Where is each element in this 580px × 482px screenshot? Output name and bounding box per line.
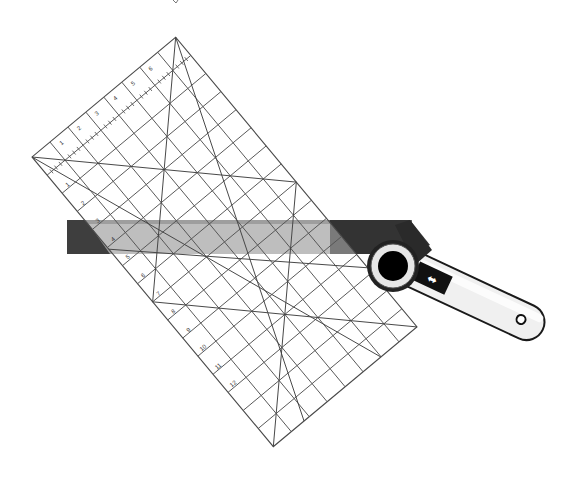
top-fragment [173,0,178,3]
blade-hub [378,251,408,281]
illustration-canvas: 123 456 789 101112 123 456 ⬌ [0,0,580,482]
